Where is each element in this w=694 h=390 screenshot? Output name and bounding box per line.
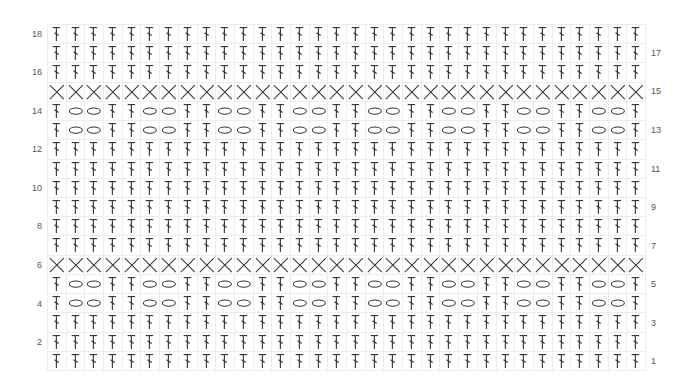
double-crochet-icon [497,63,516,82]
double-crochet-icon [198,63,217,82]
double-crochet-icon [179,352,198,371]
single-crochet-x-icon [254,83,273,102]
single-crochet-x-icon [440,256,459,275]
double-crochet-icon [627,333,646,352]
double-crochet-icon [553,179,572,198]
double-crochet-icon [310,44,329,63]
single-crochet-x-icon [291,83,310,102]
single-crochet-x-icon [366,83,385,102]
single-crochet-x-icon [179,83,198,102]
double-crochet-icon [104,275,123,294]
single-crochet-x-icon [553,256,572,275]
chain-oval-icon [85,275,104,294]
row-label-8: 8 [37,221,42,231]
double-crochet-icon [478,44,497,63]
double-crochet-icon [497,179,516,198]
double-crochet-icon [85,236,104,255]
row-label-10: 10 [32,183,42,193]
double-crochet-icon [179,198,198,217]
double-crochet-icon [403,352,422,371]
double-crochet-icon [590,160,609,179]
double-crochet-icon [104,198,123,217]
double-crochet-icon [366,217,385,236]
double-crochet-icon [497,294,516,313]
double-crochet-icon [216,140,235,159]
double-crochet-icon [85,25,104,44]
double-crochet-icon [347,333,366,352]
double-crochet-icon [48,121,67,140]
double-crochet-icon [571,236,590,255]
double-crochet-icon [347,179,366,198]
double-crochet-icon [403,160,422,179]
double-crochet-icon [384,140,403,159]
double-crochet-icon [515,198,534,217]
double-crochet-icon [179,25,198,44]
double-crochet-icon [272,160,291,179]
double-crochet-icon [291,25,310,44]
chain-oval-icon [440,102,459,121]
double-crochet-icon [384,352,403,371]
double-crochet-icon [123,217,142,236]
double-crochet-icon [104,63,123,82]
double-crochet-icon [627,217,646,236]
double-crochet-icon [497,236,516,255]
double-crochet-icon [198,160,217,179]
double-crochet-icon [216,352,235,371]
chain-oval-icon [235,121,254,140]
double-crochet-icon [515,352,534,371]
double-crochet-icon [422,333,441,352]
double-crochet-icon [272,236,291,255]
double-crochet-icon [310,313,329,332]
double-crochet-icon [571,294,590,313]
chain-oval-icon [609,294,628,313]
single-crochet-x-icon [141,83,160,102]
double-crochet-icon [272,313,291,332]
double-crochet-icon [571,313,590,332]
chain-oval-icon [384,121,403,140]
row-label-16: 16 [32,67,42,77]
double-crochet-icon [179,140,198,159]
double-crochet-icon [609,179,628,198]
double-crochet-icon [160,217,179,236]
double-crochet-icon [104,313,123,332]
double-crochet-icon [609,63,628,82]
double-crochet-icon [85,140,104,159]
double-crochet-icon [384,44,403,63]
double-crochet-icon [422,25,441,44]
double-crochet-icon [403,44,422,63]
double-crochet-icon [328,333,347,352]
double-crochet-icon [254,44,273,63]
double-crochet-icon [497,313,516,332]
single-crochet-x-icon [328,83,347,102]
double-crochet-icon [384,236,403,255]
double-crochet-icon [384,179,403,198]
row-label-18: 18 [32,29,42,39]
double-crochet-icon [67,217,86,236]
double-crochet-icon [403,102,422,121]
double-crochet-icon [67,198,86,217]
double-crochet-icon [590,352,609,371]
double-crochet-icon [403,275,422,294]
double-crochet-icon [422,121,441,140]
double-crochet-icon [160,333,179,352]
double-crochet-icon [627,25,646,44]
double-crochet-icon [347,236,366,255]
single-crochet-x-icon [384,256,403,275]
double-crochet-icon [440,217,459,236]
single-crochet-x-icon [328,256,347,275]
single-crochet-x-icon [67,256,86,275]
double-crochet-icon [272,352,291,371]
single-crochet-x-icon [403,83,422,102]
single-crochet-x-icon [216,83,235,102]
single-crochet-x-icon [310,256,329,275]
double-crochet-icon [160,140,179,159]
double-crochet-icon [422,179,441,198]
double-crochet-icon [627,44,646,63]
chain-oval-icon [440,121,459,140]
chain-oval-icon [141,275,160,294]
double-crochet-icon [459,160,478,179]
double-crochet-icon [627,102,646,121]
double-crochet-icon [235,25,254,44]
single-crochet-x-icon [478,83,497,102]
double-crochet-icon [198,198,217,217]
